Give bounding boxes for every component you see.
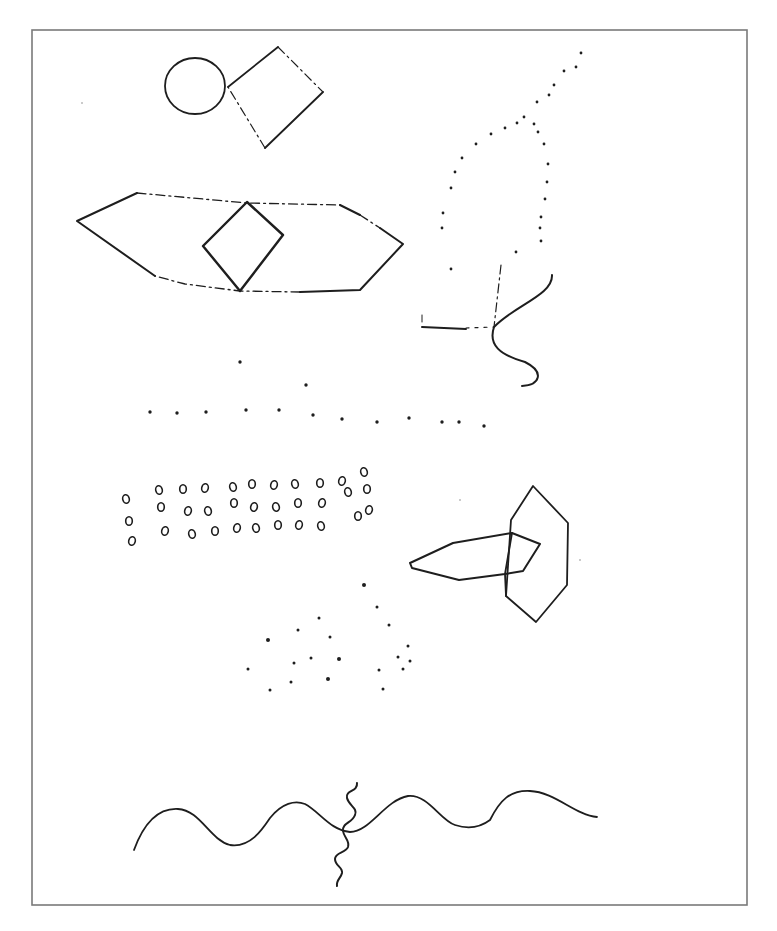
dot [540,216,543,219]
dot [337,657,341,661]
ring [295,520,303,530]
right-hexagon-shape [505,486,568,622]
hexagon-dashed-edge [360,215,380,228]
ring [122,494,130,504]
dotted-arch-shape [441,52,583,271]
dot [310,657,313,660]
dot [482,424,485,427]
hexagon-solid-edge [300,228,403,292]
circle-and-diamond-group [165,47,323,148]
arrow-polygon-shape [410,533,540,580]
dot [175,411,178,414]
ring [291,479,299,489]
ring [365,505,373,515]
dot [553,84,556,87]
dot [441,227,444,230]
ring [229,482,237,492]
speck [459,499,461,501]
dot [375,420,378,423]
ring [128,536,136,546]
ring [344,487,352,497]
dot [409,660,412,663]
dot-row [148,360,485,427]
ring [355,512,362,521]
dot [454,171,457,174]
dot [544,198,547,201]
dot [326,677,330,681]
dot [475,143,478,146]
ring [180,485,187,494]
ring-grid [122,467,373,546]
ring [212,527,219,536]
ring [318,498,326,508]
ring [270,480,278,490]
speck [579,559,581,561]
diamond-edge [265,92,323,148]
dot [244,408,247,411]
ring [204,506,212,516]
ring [252,523,260,533]
dot [388,624,391,627]
dot [311,413,314,416]
ring [233,523,241,533]
scatter-dots [247,583,412,692]
dot [247,668,250,671]
ring [158,503,165,512]
dot [536,101,539,104]
drawing-canvas [0,0,777,931]
ring [338,476,346,486]
dot [407,645,410,648]
dot [533,123,536,126]
dot [490,133,493,136]
dot [407,416,410,419]
dot [148,410,151,413]
dot [340,417,343,420]
dot [382,688,385,691]
dot [290,681,293,684]
dot [293,662,296,665]
ring [155,485,163,495]
hexagon-solid-edge [77,193,155,276]
dot [266,638,270,642]
ring [250,502,258,512]
dot [575,66,578,69]
top-diamond-shape [228,47,323,148]
diamond-edge [228,87,265,148]
ring [249,480,256,489]
dot [442,212,445,215]
dot [580,52,583,55]
dot [277,408,280,411]
ring [272,502,280,512]
dot [547,163,550,166]
vertical-dashed-line [494,265,501,327]
s-curve [492,275,552,386]
dot [515,251,518,254]
horizontal-line [422,327,466,329]
ring [317,479,324,488]
dot [269,689,272,692]
dot [543,143,546,146]
diamond-edge [228,47,278,87]
ring [188,529,196,539]
hexagon-dashed-edge [137,193,340,205]
dot [318,617,321,620]
dot [516,122,519,125]
ring [161,526,169,536]
ring [360,467,368,477]
speck [81,102,83,104]
dot [450,268,453,271]
dot [539,227,542,230]
horizontal-dashed-line [466,327,494,328]
ring [184,506,192,516]
right-hexagon-outline [506,486,568,622]
inner-diamond-shape [203,202,283,291]
corner-with-s-curve [422,265,552,386]
wave-line [134,791,597,850]
ring [317,521,325,531]
circle-shape [165,58,225,114]
dot [540,240,543,243]
dot [450,187,453,190]
dot [397,656,400,659]
dot [297,629,300,632]
dot [376,606,379,609]
